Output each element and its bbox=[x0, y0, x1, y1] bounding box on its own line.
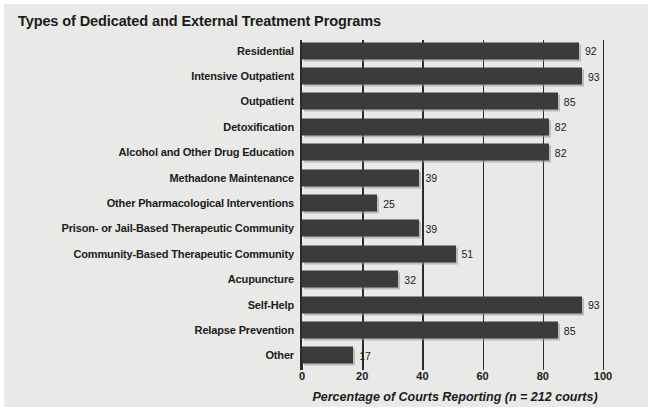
tick-mark-80 bbox=[543, 362, 544, 370]
tick-mark-20 bbox=[362, 362, 363, 370]
bar bbox=[302, 144, 549, 161]
category-label: Self-Help bbox=[248, 299, 294, 311]
category-label: Detoxification bbox=[223, 121, 294, 133]
bar-row: Intensive Outpatient93 bbox=[4, 63, 648, 88]
bar bbox=[302, 347, 353, 364]
category-label: Methadone Maintenance bbox=[169, 172, 294, 184]
bar-row: Prison- or Jail-Based Therapeutic Commun… bbox=[4, 216, 648, 241]
bar-value-label: 39 bbox=[425, 172, 437, 184]
bar-value-label: 17 bbox=[359, 349, 371, 361]
bar-row: Relapse Prevention85 bbox=[4, 317, 648, 342]
bar-row: Residential92 bbox=[4, 38, 648, 63]
category-label: Alcohol and Other Drug Education bbox=[119, 146, 294, 158]
category-label: Prison- or Jail-Based Therapeutic Commun… bbox=[61, 222, 294, 234]
bar-row: Other17 bbox=[4, 343, 648, 368]
bar-value-label: 32 bbox=[404, 273, 416, 285]
bar bbox=[302, 245, 456, 262]
tick-mark-40 bbox=[422, 362, 423, 370]
category-label: Intensive Outpatient bbox=[191, 70, 294, 82]
bar bbox=[302, 93, 558, 110]
bar-value-label: 39 bbox=[425, 222, 437, 234]
tick-label-40: 40 bbox=[416, 370, 428, 382]
bar bbox=[302, 296, 582, 313]
tick-mark-0 bbox=[302, 362, 303, 370]
bar bbox=[302, 271, 398, 288]
bar bbox=[302, 195, 377, 212]
bar-value-label: 51 bbox=[462, 248, 474, 260]
x-axis-title: Percentage of Courts Reporting (n = 212 … bbox=[300, 390, 610, 404]
bar-row: Methadone Maintenance39 bbox=[4, 165, 648, 190]
bar-row: Outpatient85 bbox=[4, 89, 648, 114]
bar bbox=[302, 118, 549, 135]
tick-mark-60 bbox=[483, 362, 484, 370]
bar-value-label: 85 bbox=[564, 324, 576, 336]
bar bbox=[302, 169, 419, 186]
bar-value-label: 85 bbox=[564, 95, 576, 107]
chart-figure: Types of Dedicated and External Treatmen… bbox=[4, 4, 648, 407]
tick-mark-100 bbox=[603, 362, 604, 370]
bar-row: Self-Help93 bbox=[4, 292, 648, 317]
bar-value-label: 92 bbox=[585, 45, 597, 57]
category-label: Other bbox=[265, 349, 294, 361]
chart-title: Types of Dedicated and External Treatmen… bbox=[18, 13, 381, 29]
bar-row: Detoxification82 bbox=[4, 114, 648, 139]
tick-label-60: 60 bbox=[476, 370, 488, 382]
bar bbox=[302, 68, 582, 85]
category-label: Other Pharmacological Interventions bbox=[107, 197, 294, 209]
x-axis: 020406080100 Percentage of Courts Report… bbox=[4, 370, 648, 407]
tick-label-100: 100 bbox=[594, 370, 612, 382]
bar-row: Acupuncture32 bbox=[4, 267, 648, 292]
bar bbox=[302, 220, 419, 237]
tick-label-80: 80 bbox=[537, 370, 549, 382]
bar-value-label: 93 bbox=[588, 70, 600, 82]
tick-label-20: 20 bbox=[356, 370, 368, 382]
tick-label-0: 0 bbox=[299, 370, 305, 382]
bar-value-label: 82 bbox=[555, 121, 567, 133]
bar-value-label: 93 bbox=[588, 299, 600, 311]
bar-row: Alcohol and Other Drug Education82 bbox=[4, 140, 648, 165]
bar-value-label: 25 bbox=[383, 197, 395, 209]
bar-value-label: 82 bbox=[555, 146, 567, 158]
category-label: Community-Based Therapeutic Community bbox=[73, 248, 294, 260]
category-label: Relapse Prevention bbox=[195, 324, 294, 336]
bar-row: Community-Based Therapeutic Community51 bbox=[4, 241, 648, 266]
category-label: Outpatient bbox=[241, 95, 295, 107]
category-label: Residential bbox=[237, 45, 294, 57]
plot-area: Residential92Intensive Outpatient93Outpa… bbox=[4, 38, 648, 370]
bar bbox=[302, 42, 579, 59]
category-label: Acupuncture bbox=[228, 273, 294, 285]
bar-row: Other Pharmacological Interventions25 bbox=[4, 190, 648, 215]
bar bbox=[302, 322, 558, 339]
